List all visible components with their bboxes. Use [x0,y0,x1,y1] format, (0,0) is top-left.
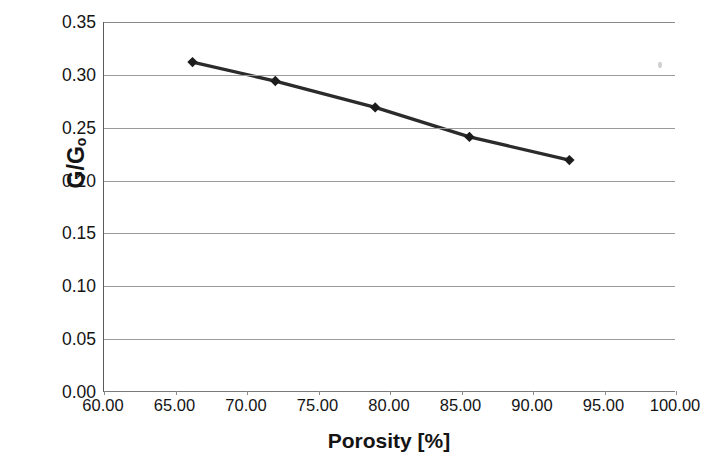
y-tick-label-0.10: 0.10 [30,276,96,297]
y-tick-label-0.25: 0.25 [30,117,96,138]
tick-mark-x-80.00 [390,391,391,395]
gridline-y-0.15 [104,233,675,234]
gridline-y-0.25 [104,128,675,129]
y-tick-label-0.30: 0.30 [30,64,96,85]
gridline-y-0.20 [104,181,675,182]
y-tick-label-0.35: 0.35 [30,12,96,33]
tick-mark-x-85.00 [462,391,463,395]
data-point-marker [370,102,380,112]
data-point-marker [187,57,197,67]
y-axis-title: G/Go [58,93,94,233]
tick-mark-x-90.00 [533,391,534,395]
data-point-marker [464,132,474,142]
gridline-y-0.05 [104,339,675,340]
tick-mark-x-95.00 [605,391,606,395]
x-axis-title: Porosity [%] [103,429,675,453]
y-tick-label-0.05: 0.05 [30,329,96,350]
series-line [193,62,570,160]
tick-mark-x-100.00 [676,391,677,395]
chart-figure: G/Go 0.000.050.100.150.200.250.300.35 60… [0,0,726,475]
x-tick-label-100.00: 100.00 [630,396,720,415]
gridline-y-0.10 [104,286,675,287]
scan-speck-artifact [658,62,662,68]
plot-area [103,22,675,392]
y-axis-title-subscript: o [73,138,89,147]
gridline-y-0.30 [104,75,675,76]
tick-mark-x-75.00 [319,391,320,395]
y-tick-label-0.20: 0.20 [30,170,96,191]
data-point-marker [270,76,280,86]
y-tick-label-0.15: 0.15 [30,223,96,244]
tick-mark-x-65.00 [176,391,177,395]
tick-mark-x-70.00 [247,391,248,395]
data-series-layer [104,22,675,391]
gridline-y-0.35 [104,22,675,23]
tick-mark-x-60.00 [104,391,105,395]
data-point-marker [564,155,574,165]
